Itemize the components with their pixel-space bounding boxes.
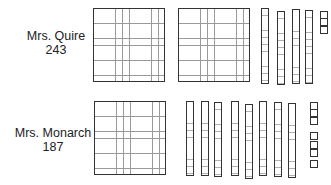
ones-cube [310, 109, 318, 117]
ones-cube [310, 141, 318, 149]
teacher-name: Mrs. Monarch [8, 126, 98, 140]
hundreds-flat [93, 8, 165, 82]
teacher-name: Mrs. Quire [16, 29, 96, 43]
tens-rod [288, 103, 296, 178]
tens-rod [201, 101, 209, 176]
tens-rod [261, 8, 269, 84]
tens-rod [305, 10, 313, 84]
tens-rod [214, 102, 222, 177]
hundreds-flat [94, 101, 166, 175]
teacher-number: 187 [8, 140, 98, 154]
ones-cube [310, 117, 318, 125]
tens-rod [186, 101, 194, 176]
teacher-number: 243 [16, 43, 96, 57]
ones-cube [320, 18, 328, 26]
ones-cube [310, 149, 318, 157]
tens-rod [259, 101, 267, 176]
ones-cube [310, 132, 318, 140]
ones-cube [310, 160, 318, 168]
tens-rod [274, 102, 282, 177]
tens-rod [292, 9, 300, 84]
hundreds-flat [178, 8, 250, 82]
row-label-quire: Mrs. Quire 243 [16, 29, 96, 57]
tens-rod [277, 11, 285, 85]
row-label-monarch: Mrs. Monarch 187 [8, 126, 98, 154]
tens-rod [231, 101, 239, 176]
tens-rod [245, 104, 253, 179]
ones-cube [320, 26, 328, 34]
